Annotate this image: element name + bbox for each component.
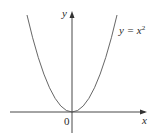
y-axis-label: y xyxy=(61,7,67,19)
y-axis-arrow-icon xyxy=(70,11,75,18)
function-label-base: y = x xyxy=(118,24,142,36)
parabola-graph: y 0 x y = x2 xyxy=(0,0,157,136)
function-label-exponent: 2 xyxy=(142,24,146,32)
origin-label: 0 xyxy=(64,115,70,127)
function-label: y = x2 xyxy=(118,24,146,36)
x-axis-label: x xyxy=(141,114,147,126)
